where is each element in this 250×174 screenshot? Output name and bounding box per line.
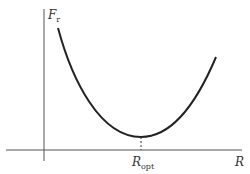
r-opt-label: Ropt: [131, 155, 155, 171]
diagram: Fr Ropt R: [0, 0, 250, 174]
x-axis-label: R: [234, 155, 244, 169]
curve: [58, 28, 216, 137]
y-axis-label: Fr: [47, 8, 60, 24]
